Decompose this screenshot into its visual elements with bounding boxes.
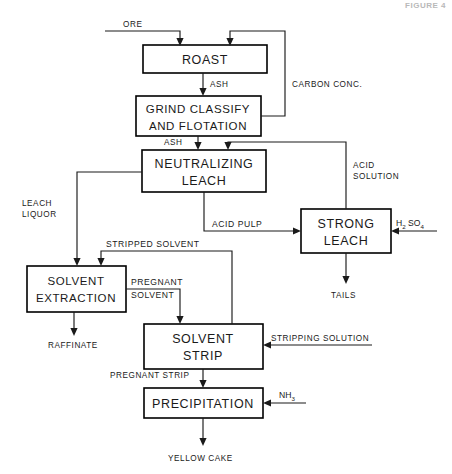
stream-tails: TAILS bbox=[331, 253, 356, 300]
stream-pregnant-strip: PREGNANT STRIP bbox=[110, 369, 207, 388]
solvent-strip-label-line2: STRIP bbox=[183, 349, 223, 363]
ash-2-label: ASH bbox=[164, 138, 183, 147]
solvent-extraction-box-outline bbox=[27, 266, 126, 312]
solvent-strip-label-line1: SOLVENT bbox=[172, 332, 234, 346]
stripping-solution-arrowhead bbox=[263, 341, 271, 348]
neutralizing-leach-label-line1: NEUTRALIZING bbox=[155, 157, 254, 171]
stripped-solvent-arrowhead bbox=[97, 258, 104, 266]
ammonia-label: NH3 bbox=[279, 390, 295, 402]
roast-box-label: ROAST bbox=[182, 53, 228, 67]
grind-box-label-line2: AND FLOTATION bbox=[149, 120, 247, 132]
flowsheet-canvas: ROAST GRIND CLASSIFY AND FLOTATION NEUTR… bbox=[0, 0, 452, 474]
process-box-grind-classify-flotation[interactable]: GRIND CLASSIFY AND FLOTATION bbox=[136, 96, 261, 136]
ash-1-label: ASH bbox=[210, 80, 229, 89]
acid-pulp-arrowhead bbox=[293, 227, 301, 234]
nh3-n: NH bbox=[279, 390, 291, 400]
acid-pulp-label: ACID PULP bbox=[212, 219, 262, 229]
pregnant-solvent-label-line1: PREGNANT bbox=[131, 277, 183, 287]
pregnant-strip-label: PREGNANT STRIP bbox=[110, 371, 189, 380]
acid-solution-label-line2: SOLUTION bbox=[353, 172, 399, 181]
tails-arrowhead bbox=[342, 276, 349, 284]
stream-stripping-solution: STRIPPING SOLUTION bbox=[263, 334, 372, 349]
strong-leach-label-line2: LEACH bbox=[324, 234, 369, 248]
ammonia-arrowhead bbox=[263, 399, 271, 406]
stripped-solvent-label: STRIPPED SOLVENT bbox=[106, 239, 200, 249]
process-box-neutralizing-leach[interactable]: NEUTRALIZING LEACH bbox=[142, 150, 266, 192]
acid-solution-arrowhead bbox=[224, 142, 231, 150]
stream-pregnant-solvent: PREGNANT SOLVENT bbox=[126, 277, 184, 324]
stripping-solution-label: STRIPPING SOLUTION bbox=[271, 334, 369, 343]
stream-ash-grind-to-neutralizing: ASH bbox=[164, 136, 202, 150]
solvent-extraction-label-line1: SOLVENT bbox=[47, 275, 104, 287]
process-box-solvent-extraction[interactable]: SOLVENT EXTRACTION bbox=[27, 266, 126, 312]
precipitation-label: PRECIPITATION bbox=[152, 397, 254, 411]
strong-leach-label-line1: STRONG bbox=[317, 217, 374, 231]
stream-ash-roast-to-grind: ASH bbox=[199, 73, 228, 96]
process-box-solvent-strip[interactable]: SOLVENT STRIP bbox=[144, 324, 263, 369]
raffinate-label: RAFFINATE bbox=[48, 341, 98, 350]
stream-raffinate: RAFFINATE bbox=[48, 312, 98, 350]
pregnant-solvent-arrowhead bbox=[176, 316, 183, 324]
stream-ammonia: NH3 bbox=[263, 390, 306, 407]
ash-2-arrowhead bbox=[194, 142, 201, 150]
solvent-extraction-label-line2: EXTRACTION bbox=[36, 292, 116, 304]
raffinate-arrowhead bbox=[70, 328, 77, 336]
neutralizing-leach-label-line2: LEACH bbox=[182, 174, 227, 188]
yellow-cake-label: YELLOW CAKE bbox=[168, 454, 233, 463]
carbon-conc-label: CARBON CONC. bbox=[292, 80, 362, 89]
stream-ore: ORE bbox=[105, 20, 184, 46]
process-box-roast[interactable]: ROAST bbox=[143, 45, 267, 73]
acid-solution-label-line1: ACID bbox=[353, 161, 375, 170]
process-box-precipitation[interactable]: PRECIPITATION bbox=[144, 388, 263, 418]
ash-1-arrowhead bbox=[199, 88, 206, 96]
stream-acid-pulp: ACID PULP bbox=[204, 192, 301, 235]
process-flow-diagram-page: FIGURE 4 ROAST GRIND CLASSIFY AND FLOTAT… bbox=[0, 0, 452, 474]
stream-sulfuric-acid: H2 SO4 bbox=[391, 218, 437, 235]
grind-box-label-line1: GRIND CLASSIFY bbox=[146, 103, 250, 115]
pregnant-solvent-label-line2: SOLVENT bbox=[131, 290, 175, 300]
sulfuric-acid-label: H2 SO4 bbox=[396, 218, 424, 230]
leach-liquor-arrowhead bbox=[73, 258, 80, 266]
leach-liquor-label-line2: LIQUOR bbox=[22, 210, 57, 219]
sulfuric-acid-arrowhead bbox=[391, 227, 399, 234]
tails-label: TAILS bbox=[331, 291, 356, 300]
yellow-cake-arrowhead bbox=[199, 438, 206, 446]
h2so4-sub4: 4 bbox=[420, 223, 424, 230]
ore-label: ORE bbox=[123, 20, 142, 29]
stream-yellow-cake: YELLOW CAKE bbox=[168, 418, 233, 463]
stream-leach-liquor: LEACH LIQUOR bbox=[22, 172, 142, 266]
h2so4-so: SO bbox=[408, 218, 421, 228]
pregnant-strip-arrowhead bbox=[199, 380, 206, 388]
leach-liquor-label-line1: LEACH bbox=[22, 199, 52, 208]
process-box-strong-leach[interactable]: STRONG LEACH bbox=[301, 209, 391, 253]
nh3-sub3: 3 bbox=[291, 395, 295, 402]
